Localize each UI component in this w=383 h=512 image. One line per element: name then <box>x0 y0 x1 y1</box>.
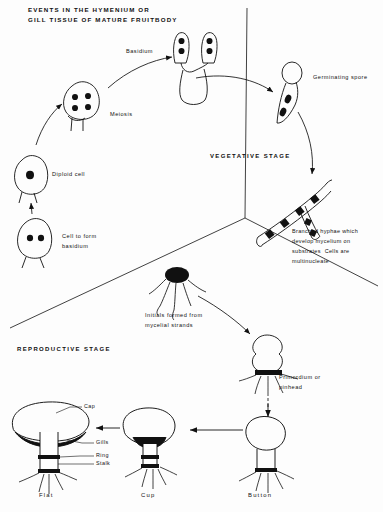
button-stalk <box>257 449 275 470</box>
label-stalk: Stalk <box>96 460 110 468</box>
cell-to-form-nucleus-2 <box>38 235 44 241</box>
branched-hyphae-group <box>257 180 332 246</box>
figure-title-line2: GILL TISSUE OF MATURE FRUITBODY <box>28 16 178 25</box>
cell-to-form-stalk-right <box>40 258 44 268</box>
label-cap: Cap <box>84 403 95 411</box>
germ-tube-nucleus-1 <box>283 94 292 105</box>
spore-to-hyphae-arrow <box>298 112 312 174</box>
hypha-base-tip <box>257 237 262 246</box>
meiosis-nucleus-3 <box>72 105 78 111</box>
button-cap <box>246 416 286 450</box>
label-hyphae-line1: Branched hyphae which <box>292 228 358 236</box>
arrow-meiosis-to-basidium <box>108 57 172 88</box>
meiosis-nucleus-1 <box>72 94 78 100</box>
button-mushroom-group <box>239 416 294 493</box>
label-hyphae-line4: multinucleate <box>292 258 329 266</box>
germ-tube-nucleus-2 <box>278 107 287 118</box>
label-basidium: Basidium <box>126 47 153 55</box>
spore-head <box>282 62 302 84</box>
diploid-nucleus <box>26 171 34 179</box>
diagram-canvas: EVENTS IN THE HYMENIUM OR GILL TISSUE OF… <box>0 0 383 512</box>
cup-base-band <box>141 464 159 468</box>
label-initials-line1: Initials formed from <box>145 311 203 319</box>
label-cell-to-form-basidium-2: basidium <box>62 242 88 250</box>
initials-to-primordium-arrow <box>198 296 250 334</box>
basidium-spore-right <box>202 33 217 63</box>
flat-base-band <box>38 469 60 473</box>
cell-to-form-nucleus-1 <box>27 235 33 241</box>
flat-stalk <box>40 432 58 470</box>
flat-mushroom-group <box>12 402 89 494</box>
meiosis-cell-group <box>64 82 100 131</box>
cell-to-form-basidium-body <box>18 219 52 259</box>
label-ring: Ring <box>96 452 109 460</box>
label-primordium-line1: Primordium or <box>279 373 321 381</box>
flat-ring <box>38 455 60 459</box>
divider-lower-left <box>10 218 245 328</box>
label-meiosis: Meiosis <box>110 110 132 118</box>
basidium-spore-left-nucleus-2 <box>179 48 185 54</box>
label-initials-line2: mycelial strands <box>145 321 193 329</box>
label-primordium-line2: pinhead <box>279 383 302 391</box>
arrow-diploid-to-meiosis <box>36 104 62 145</box>
button-base-band <box>255 468 277 472</box>
basidium-spore-left-nucleus-1 <box>179 38 185 44</box>
label-cell-to-form-basidium-1: Cell to form <box>62 232 97 240</box>
label-diploid-cell: Diploid cell <box>52 170 85 178</box>
basidium-spore-left <box>174 33 189 63</box>
basidium-spore-right-nucleus-1 <box>207 38 213 44</box>
button-rhizoids <box>239 471 294 493</box>
diploid-stalk-right <box>34 193 37 203</box>
hypha-nucleus-3 <box>295 206 305 216</box>
germinating-spore-group <box>277 62 302 123</box>
meiosis-nucleus-2 <box>85 93 91 99</box>
basidium-body <box>180 69 207 105</box>
arrow-cell-to-diploid <box>31 203 32 214</box>
fruitbody-leader-lines <box>56 407 94 464</box>
primordium-body <box>252 335 282 373</box>
label-stage-flat: Flat <box>39 491 54 500</box>
cup-stalk <box>143 444 157 465</box>
label-stage-cup: Cup <box>141 491 155 500</box>
meiosis-nucleus-4 <box>85 104 91 110</box>
label-vegetative-stage: VEGETATIVE STAGE <box>210 152 291 161</box>
meiosis-stalk-left <box>71 118 72 131</box>
hypha-main-lower <box>262 191 331 245</box>
arrow-initials-to-primordium <box>198 296 250 334</box>
diploid-cell-group <box>15 156 48 203</box>
label-stage-button: Button <box>248 491 272 500</box>
hypha-tip <box>327 180 332 183</box>
label-hyphae-line3: substrates Cells are <box>292 248 349 256</box>
initials-knot <box>165 267 189 283</box>
cup-rhizoids <box>125 467 177 489</box>
hymenium-cycle-arrows <box>31 57 172 214</box>
leader-ring <box>60 456 94 457</box>
primordium-base-band <box>255 370 282 375</box>
meiosis-cell-body <box>64 82 100 120</box>
cell-to-form-basidium-group <box>18 219 52 268</box>
hypha-nucleus-4 <box>310 194 320 204</box>
divider-vertical <box>245 8 247 218</box>
sector-divider-lines <box>10 8 378 328</box>
label-gills: Gills <box>96 439 109 447</box>
basidium-sterigmata <box>181 63 208 72</box>
arrow-spore-to-hyphae <box>298 112 312 174</box>
label-germinating-spore: Germinating spore <box>313 73 368 81</box>
basidium-group <box>174 33 217 105</box>
basidium-spore-right-nucleus-2 <box>207 48 213 54</box>
cell-to-form-stalk-left <box>22 257 26 268</box>
figure-title-line1: EVENTS IN THE HYMENIUM OR <box>28 6 150 15</box>
label-reproductive-stage: REPRODUCTIVE STAGE <box>17 345 111 354</box>
diploid-stalk-left <box>19 192 22 203</box>
cup-ring <box>141 455 159 459</box>
cup-mushroom-group <box>123 408 177 489</box>
label-hyphae-line2: develop mycelium on <box>292 238 350 246</box>
